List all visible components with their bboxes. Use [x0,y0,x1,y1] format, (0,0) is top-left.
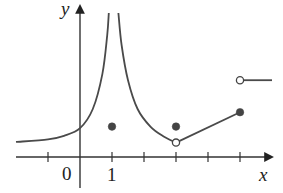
x-axis-label: x [259,164,267,186]
filled-point [236,108,244,116]
filled-point [172,123,180,131]
left-branch [16,13,109,142]
points [108,77,244,147]
right-branch [118,13,176,143]
open-point [236,77,243,84]
function-graph [0,0,283,193]
y-axis-label: y [61,0,69,20]
tick-label-1: 1 [107,164,117,186]
segment [176,112,240,142]
origin-label: 0 [62,163,72,185]
axes [16,6,272,188]
curves [16,13,272,143]
filled-point [108,123,116,131]
open-point [172,139,179,146]
